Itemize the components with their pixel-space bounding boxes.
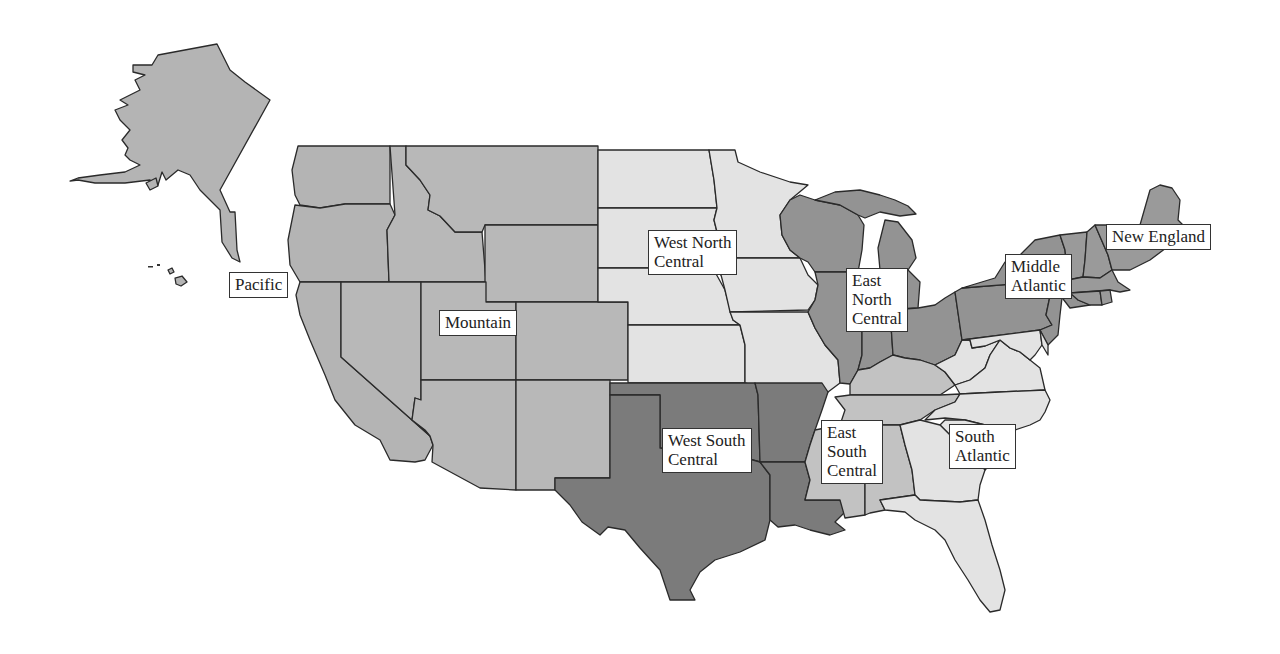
- state-alaska: [70, 44, 270, 262]
- state-hawaii-2: [168, 268, 174, 274]
- us-census-division-map: [0, 0, 1280, 654]
- state-kansas: [628, 325, 745, 383]
- label-east-north-central: East North Central: [846, 268, 908, 332]
- state-oregon: [288, 204, 395, 282]
- label-pacific: Pacific: [229, 272, 288, 298]
- state-hawaii: [175, 276, 187, 286]
- label-new-england: New England: [1106, 224, 1211, 250]
- label-west-south-central: West South Central: [662, 428, 752, 473]
- label-middle-atlantic: Middle Atlantic: [1005, 254, 1072, 299]
- label-west-north-central: West North Central: [648, 230, 737, 275]
- label-south-atlantic: South Atlantic: [949, 424, 1016, 469]
- state-new-mexico: [516, 380, 610, 490]
- state-colorado: [516, 302, 628, 380]
- label-east-south-central: East South Central: [821, 420, 883, 484]
- state-wyoming: [485, 225, 598, 302]
- state-florida: [880, 495, 1005, 612]
- state-rhode-island: [1100, 290, 1112, 305]
- state-washington: [292, 146, 390, 208]
- region-pacific: [70, 44, 433, 462]
- label-mountain: Mountain: [439, 310, 517, 336]
- state-north-dakota: [598, 150, 717, 208]
